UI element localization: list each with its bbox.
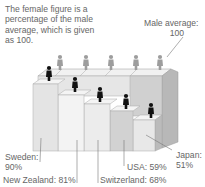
label-line: 90% — [5, 162, 38, 172]
label-line: 51% — [176, 160, 202, 170]
block-japan — [133, 120, 155, 151]
block-sweden — [33, 84, 58, 151]
male-figure-icon — [108, 55, 114, 70]
block-usa — [110, 111, 133, 151]
new-zealand-label: New Zealand: 81% — [3, 175, 76, 185]
male-average-label: Male average: 100 — [144, 18, 198, 39]
usa-label: USA: 59% — [127, 162, 167, 172]
male-figure-icon — [57, 55, 63, 70]
male-figure-icon — [133, 55, 139, 70]
label-line: Sweden: — [5, 152, 38, 162]
male-figure-icon — [83, 55, 89, 70]
label-line: 100 — [144, 28, 198, 38]
block-switzerland — [84, 104, 110, 151]
japan-label: Japan: 51% — [176, 150, 202, 171]
label-line: Male average: — [144, 18, 198, 28]
switzerland-label: Switzerland: 68% — [100, 175, 166, 185]
male-figures — [57, 55, 163, 70]
sweden-label: Sweden: 90% — [5, 152, 38, 173]
block-new-zealand — [58, 95, 84, 151]
male-figure-icon — [157, 55, 163, 70]
label-line: Japan: — [176, 150, 202, 160]
